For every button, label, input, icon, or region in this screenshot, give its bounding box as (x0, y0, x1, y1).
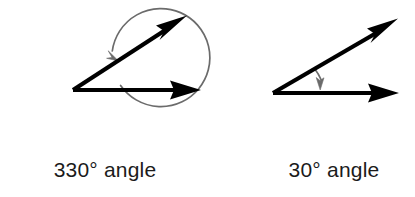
reflex-horizontal-ray-arrowhead (170, 81, 201, 100)
acute-horizontal-ray-arrowhead (368, 84, 399, 103)
reflex-upper-ray-arrowhead (156, 16, 187, 41)
angle-diagram-figure: 330° angle 30° angle (0, 0, 415, 197)
acute-upper-ray (273, 32, 378, 93)
reflex-upper-ray (73, 29, 167, 90)
caption-reflex-angle: 330° angle (0, 158, 210, 182)
reflex-angle-figure (73, 9, 210, 107)
acute-angle-figure (273, 19, 399, 103)
acute-upper-ray-arrowhead (367, 19, 398, 44)
caption-acute-angle: 30° angle (232, 158, 415, 182)
